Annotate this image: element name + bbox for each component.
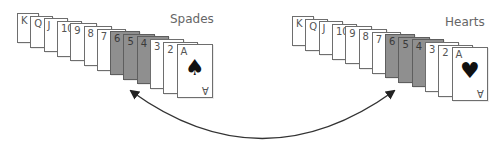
card-rank: Q — [34, 18, 42, 29]
card-rank: 5 — [127, 36, 133, 47]
spade-suit-icon: ♠ — [185, 57, 205, 79]
card-rank-inverted: A — [477, 88, 484, 99]
card-rank: K — [21, 15, 28, 26]
card-rank-inverted: A — [202, 85, 209, 96]
card-rank: 7 — [101, 31, 107, 42]
heart-suit-icon: ♥ — [460, 60, 480, 82]
card-rank: 3 — [154, 41, 160, 52]
card-rank: 5 — [402, 39, 408, 50]
card-rank: 6 — [389, 36, 395, 47]
card-rank: 2 — [442, 47, 448, 58]
card-rank: 4 — [141, 38, 147, 49]
card-rank: Q — [309, 21, 317, 32]
card-rank: K — [296, 18, 303, 29]
card-rank: J — [48, 20, 51, 31]
card-spades-a: A♠A — [177, 44, 213, 98]
card-rank: 7 — [376, 34, 382, 45]
card-rank: 9 — [349, 28, 355, 39]
card-hearts-a: A♥A — [452, 47, 488, 101]
card-rank: 8 — [88, 28, 94, 39]
card-rank: 8 — [363, 31, 369, 42]
card-rank: 3 — [429, 44, 435, 55]
card-rank: 9 — [74, 25, 80, 36]
card-rank: 2 — [167, 44, 173, 55]
card-rank: 4 — [416, 41, 422, 52]
card-rank: J — [323, 23, 326, 34]
card-rank: 6 — [114, 33, 120, 44]
